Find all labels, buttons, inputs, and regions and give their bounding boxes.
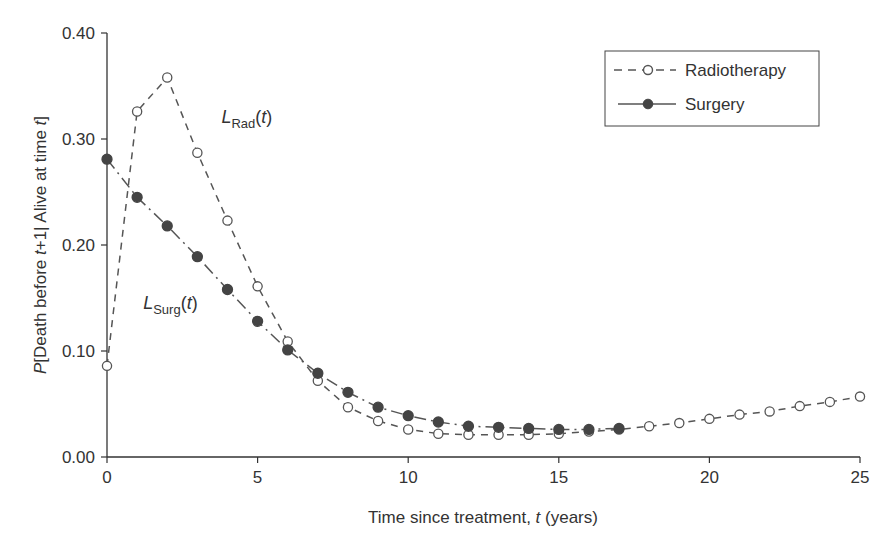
curve-label-surg: LSurg(t) — [143, 293, 198, 317]
filled-circle-marker — [494, 422, 504, 432]
filled-circle-marker — [222, 285, 232, 295]
open-circle-marker — [825, 397, 834, 406]
survival-chart: 0.000.100.200.300.400510152025 LRad(t)LS… — [0, 0, 889, 545]
filled-circle-marker — [313, 368, 323, 378]
filled-circle-marker — [102, 154, 112, 164]
y-tick-label: 0.00 — [62, 448, 95, 467]
series-radiotherapy — [102, 73, 864, 439]
x-tick-label: 15 — [549, 468, 568, 487]
legend-label-surgery: Surgery — [685, 95, 745, 114]
x-tick-label: 25 — [851, 468, 870, 487]
y-axis-title: P[Death before t+1| Alive at time t] — [31, 116, 50, 374]
series-line — [107, 78, 860, 435]
filled-circle-marker — [403, 411, 413, 421]
filled-circle-marker — [373, 402, 383, 412]
series — [102, 73, 865, 439]
open-circle-marker — [855, 392, 864, 401]
open-circle-marker — [645, 422, 654, 431]
open-circle-marker — [705, 414, 714, 423]
curve-label-rad: LRad(t) — [221, 107, 272, 131]
filled-circle-marker — [554, 424, 564, 434]
y-tick-label: 0.40 — [62, 24, 95, 43]
filled-circle-marker — [162, 221, 172, 231]
open-circle-marker — [404, 425, 413, 434]
open-circle-marker — [253, 282, 262, 291]
filled-circle-marker — [524, 423, 534, 433]
open-circle-marker — [163, 73, 172, 82]
y-tick-label: 0.20 — [62, 236, 95, 255]
open-circle-marker — [193, 148, 202, 157]
x-tick-label: 0 — [102, 468, 111, 487]
filled-circle-marker — [132, 192, 142, 202]
open-circle-marker — [133, 107, 142, 116]
filled-circle-marker — [192, 252, 202, 262]
legend: Radiotherapy Surgery — [605, 51, 819, 126]
open-circle-marker — [343, 403, 352, 412]
open-circle-marker — [735, 410, 744, 419]
x-axis-title: Time since treatment, t (years) — [368, 508, 598, 527]
open-circle-marker — [675, 418, 684, 427]
open-circle-marker — [434, 429, 443, 438]
filled-circle-marker-icon — [643, 99, 653, 109]
y-tick-label: 0.10 — [62, 342, 95, 361]
open-circle-marker-icon — [644, 66, 653, 75]
open-circle-marker — [795, 402, 804, 411]
filled-circle-marker — [463, 421, 473, 431]
filled-circle-marker — [343, 387, 353, 397]
open-circle-marker — [223, 216, 232, 225]
filled-circle-marker — [433, 417, 443, 427]
x-tick-label: 5 — [253, 468, 262, 487]
filled-circle-marker — [253, 316, 263, 326]
open-circle-marker — [765, 407, 774, 416]
y-tick-label: 0.30 — [62, 130, 95, 149]
open-circle-marker — [373, 416, 382, 425]
x-tick-label: 20 — [700, 468, 719, 487]
filled-circle-marker — [614, 423, 624, 433]
filled-circle-marker — [283, 345, 293, 355]
open-circle-marker — [102, 361, 111, 370]
filled-circle-marker — [584, 424, 594, 434]
legend-label-radiotherapy: Radiotherapy — [685, 61, 787, 80]
x-tick-label: 10 — [399, 468, 418, 487]
